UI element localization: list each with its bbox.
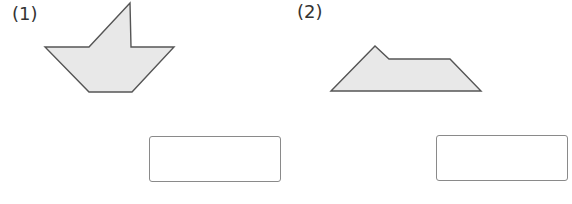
- boat-shape: [45, 3, 174, 92]
- answer-box-1[interactable]: [149, 136, 281, 182]
- trapezoid-notch-shape: [331, 46, 481, 91]
- answer-box-2[interactable]: [436, 135, 568, 181]
